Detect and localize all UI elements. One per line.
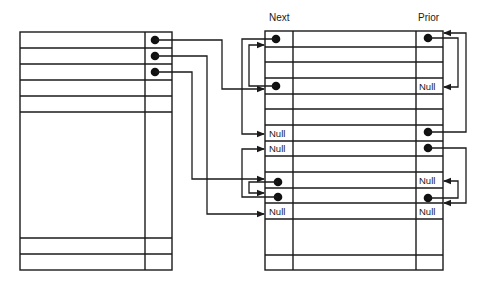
next-null-row-12: Null — [269, 206, 285, 217]
linked-list-diagram: Next Prior Null N — [0, 0, 484, 282]
prior-null-row-10: Null — [419, 175, 435, 186]
next-null-row-7: Null — [269, 143, 285, 154]
next-null-row-6: Null — [269, 128, 285, 139]
next-link-row3-to-row0 — [249, 45, 276, 86]
prior-column-header: Prior — [418, 12, 440, 23]
right-table: Null Null Null Null Null Null — [265, 31, 443, 270]
prior-null-row-3: Null — [419, 81, 435, 92]
prior-null-row-12: Null — [419, 206, 435, 217]
left-table — [20, 32, 172, 270]
next-column-header: Next — [269, 12, 290, 23]
